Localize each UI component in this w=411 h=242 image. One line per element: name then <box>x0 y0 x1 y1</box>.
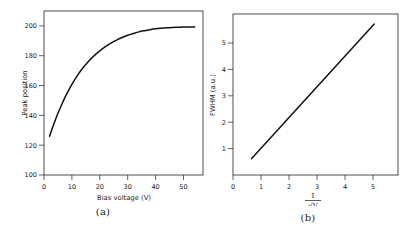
y-tick-label: 2 <box>222 119 226 127</box>
y-tick-label: 4 <box>222 66 226 74</box>
y-axis-title-a: Peak position <box>21 70 29 115</box>
x-tick-label: 0 <box>42 183 46 191</box>
x-tick-label: 50 <box>179 183 187 191</box>
x-tick-label: 4 <box>343 183 347 191</box>
x-axis-tick-labels-b: 0 1 2 3 4 5 <box>231 183 375 191</box>
y-tick-label: 180 <box>25 52 37 60</box>
figure-container: 100 120 140 160 180 200 0 10 20 30 <box>0 0 411 242</box>
y-tick-label: 1 <box>222 145 226 153</box>
x-tick-label: 40 <box>151 183 159 191</box>
data-curve-a <box>50 27 195 136</box>
x-tick-label: 5 <box>371 183 375 191</box>
y-axis-ticks-a <box>39 26 44 175</box>
fraction-numerator: 1 <box>311 192 315 200</box>
x-axis-ticks-b <box>233 175 373 180</box>
y-tick-label: 200 <box>25 22 37 30</box>
x-tick-label: 2 <box>287 183 291 191</box>
x-tick-label: 10 <box>68 183 76 191</box>
y-axis-title-b: FWHM (a.u.) <box>209 74 217 116</box>
x-axis-title-a: Bias voltage (V) <box>97 194 151 202</box>
y-tick-label: 100 <box>25 171 37 179</box>
x-axis-tick-labels-a: 0 10 20 30 40 50 <box>42 183 188 191</box>
x-axis-title-b-fraction: 1 √V <box>305 192 321 206</box>
data-line-b <box>251 24 374 159</box>
fraction-denominator: √V <box>308 202 318 206</box>
chart-b-svg: 1 2 3 4 5 0 1 2 3 4 5 <box>205 0 411 206</box>
panel-caption-a: (a) <box>0 206 206 217</box>
y-axis-ticks-b <box>228 43 233 149</box>
panel-b: 1 2 3 4 5 0 1 2 3 4 5 <box>205 0 411 242</box>
x-axis-ticks-a <box>44 175 184 180</box>
y-axis-tick-labels-b: 1 2 3 4 5 <box>222 39 226 153</box>
x-tick-label: 3 <box>315 183 319 191</box>
panel-a: 100 120 140 160 180 200 0 10 20 30 <box>0 0 206 242</box>
y-tick-label: 3 <box>222 92 226 100</box>
y-tick-label: 120 <box>25 142 37 150</box>
x-tick-label: 0 <box>231 183 235 191</box>
y-tick-label: 5 <box>222 39 226 47</box>
x-tick-label: 20 <box>96 183 104 191</box>
chart-a-svg: 100 120 140 160 180 200 0 10 20 30 <box>0 0 206 206</box>
x-tick-label: 30 <box>124 183 132 191</box>
panel-caption-b: (b) <box>205 212 411 223</box>
x-tick-label: 1 <box>259 183 263 191</box>
